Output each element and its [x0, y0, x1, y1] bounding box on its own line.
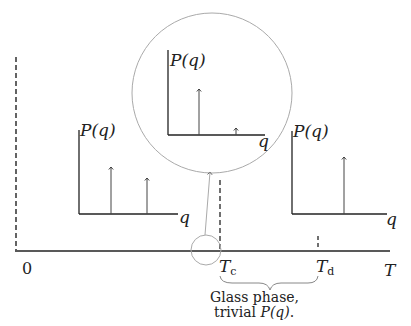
axis-label-T: T	[384, 260, 397, 280]
tc-label: Tc	[219, 256, 237, 278]
phase-diagram: 0 T Tc Td Glass phase, trivial P(q). P(q…	[0, 0, 411, 326]
magnifier-connector	[205, 172, 210, 235]
inset1-ylabel: P(q)	[79, 120, 116, 140]
inset1-xlabel: q	[179, 207, 190, 227]
magnifier-small-circle	[191, 235, 221, 265]
inset2-xlabel: q	[258, 131, 269, 151]
inset-low-T: P(q) q	[79, 120, 190, 227]
inset3-xlabel: q	[386, 209, 397, 229]
brace-line2: trivial P(q).	[214, 304, 294, 320]
inset-zoom-Tc: P(q) q	[168, 50, 269, 151]
brace-line1: Glass phase,	[210, 289, 299, 305]
inset2-ylabel: P(q)	[169, 50, 206, 70]
inset-high-T: P(q) q	[292, 121, 397, 229]
origin-label: 0	[22, 259, 32, 278]
td-label: Td	[316, 256, 334, 278]
glass-phase-brace	[220, 276, 318, 290]
inset3-ylabel: P(q)	[292, 121, 329, 141]
